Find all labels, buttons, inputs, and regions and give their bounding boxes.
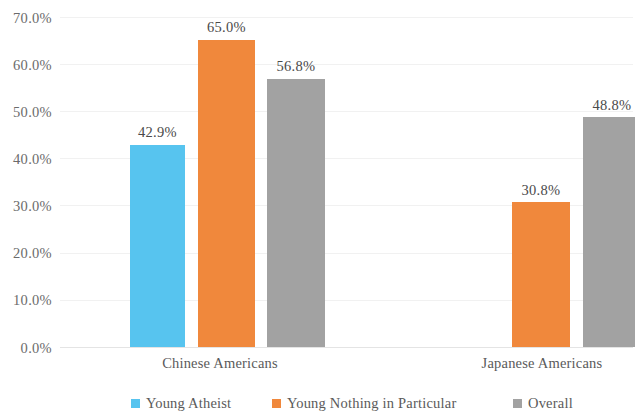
bar-japanese-young-nothing-in-particular[interactable]	[512, 202, 570, 347]
value-label-japanese-overall: 48.8%	[574, 98, 639, 113]
legend-label-young-nothing-in-particular: Young Nothing in Particular	[287, 396, 456, 411]
y-axis-tick-10: 10.0%	[0, 293, 52, 308]
legend-label-overall: Overall	[528, 396, 573, 411]
bar-chinese-young-nothing-in-particular[interactable]	[198, 40, 255, 347]
y-axis-tick-30: 30.0%	[0, 199, 52, 214]
x-axis-category-chinese-americans: Chinese Americans	[140, 355, 300, 372]
y-axis-tick-50: 50.0%	[0, 105, 52, 120]
bar-chinese-young-atheist[interactable]	[130, 145, 185, 347]
value-label-chinese-overall: 56.8%	[258, 59, 334, 74]
legend-item-young-atheist[interactable]: Young Atheist	[131, 396, 231, 411]
legend-swatch-gray-icon	[513, 399, 522, 408]
legend-swatch-blue-icon	[131, 399, 140, 408]
x-axis-category-japanese-americans: Japanese Americans	[452, 355, 632, 372]
y-axis-tick-20: 20.0%	[0, 246, 52, 261]
y-axis-tick-40: 40.0%	[0, 152, 52, 167]
value-label-chinese-young-nothing: 65.0%	[189, 20, 264, 35]
bar-japanese-overall[interactable]	[583, 117, 635, 347]
y-axis-tick-70: 70.0%	[0, 11, 52, 26]
gridline-70	[60, 17, 633, 18]
gridline-60	[60, 64, 633, 65]
legend-item-overall[interactable]: Overall	[513, 396, 573, 411]
chart-legend: Young Atheist Young Nothing in Particula…	[0, 396, 633, 418]
plot-area: 42.9% 65.0% 56.8% 30.8% 48.8%	[60, 17, 633, 347]
x-axis-baseline	[60, 347, 633, 348]
legend-swatch-orange-icon	[272, 399, 281, 408]
y-axis-tick-0: 0.0%	[0, 341, 52, 356]
legend-label-young-atheist: Young Atheist	[146, 396, 231, 411]
value-label-japanese-young-nothing: 30.8%	[503, 183, 579, 198]
value-label-chinese-young-atheist: 42.9%	[120, 125, 195, 140]
gridline-50	[60, 111, 633, 112]
bar-chinese-overall[interactable]	[267, 79, 325, 347]
legend-item-young-nothing-in-particular[interactable]: Young Nothing in Particular	[272, 396, 456, 411]
y-axis-tick-60: 60.0%	[0, 58, 52, 73]
